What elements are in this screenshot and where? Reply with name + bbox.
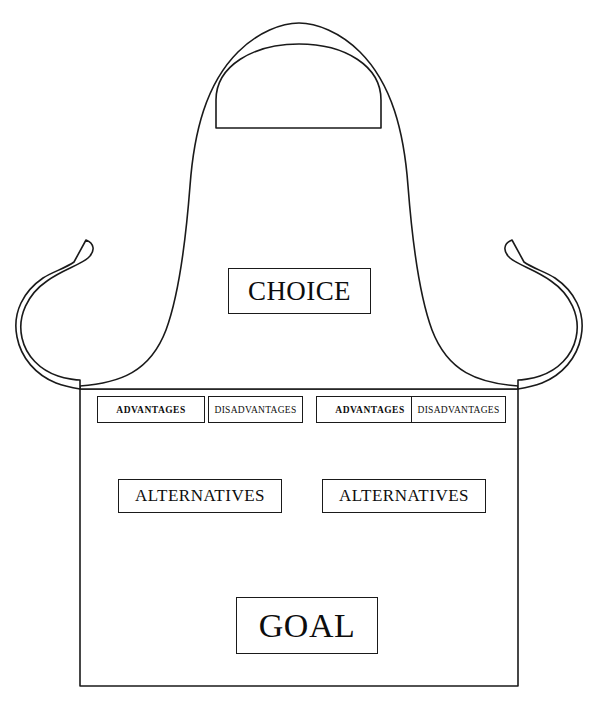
disadvantages-label-1: DISADVANTAGES — [215, 405, 297, 415]
disadvantages-box-2: DISADVANTAGES — [411, 396, 506, 423]
goal-box: GOAL — [236, 597, 378, 654]
choice-box: CHOICE — [228, 268, 371, 314]
advantages-box-2: ADVANTAGES — [316, 396, 424, 423]
choice-label: CHOICE — [248, 276, 351, 307]
advantages-label-1: ADVANTAGES — [116, 405, 185, 415]
disadvantages-box-1: DISADVANTAGES — [208, 396, 303, 423]
alternatives-box-2: ALTERNATIVES — [322, 479, 486, 513]
apron-bib — [80, 23, 518, 389]
disadvantages-label-2: DISADVANTAGES — [418, 405, 500, 415]
alternatives-label-1: ALTERNATIVES — [135, 486, 265, 506]
advantages-box-1: ADVANTAGES — [97, 396, 205, 423]
diagram-canvas: CHOICE ADVANTAGES DISADVANTAGES ADVANTAG… — [0, 0, 597, 705]
left-waist-tie — [16, 240, 93, 389]
alternatives-box-1: ALTERNATIVES — [118, 479, 282, 513]
right-waist-tie — [505, 240, 582, 389]
alternatives-label-2: ALTERNATIVES — [339, 486, 469, 506]
advantages-label-2: ADVANTAGES — [335, 405, 404, 415]
goal-label: GOAL — [259, 607, 355, 645]
